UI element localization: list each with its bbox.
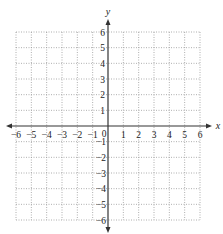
x-tick-label: 6 <box>198 130 203 140</box>
y-tick-label: −6 <box>96 216 106 226</box>
x-axis-label: x <box>215 120 221 131</box>
x-tick-label: −6 <box>11 130 21 140</box>
y-tick-label: −5 <box>96 200 106 210</box>
y-tick-label: 6 <box>100 28 105 38</box>
x-tick-label: −4 <box>42 130 52 140</box>
x-axis-right-arrow-icon <box>206 124 212 129</box>
x-axis-left-arrow-icon <box>6 124 12 129</box>
y-tick-label: −2 <box>96 153 106 163</box>
y-tick-label: −1 <box>96 137 106 147</box>
y-tick-label: 1 <box>100 106 105 116</box>
axes <box>6 19 212 233</box>
y-tick-label: −4 <box>96 184 106 194</box>
x-tick-label: −3 <box>57 130 67 140</box>
y-tick-label: 3 <box>100 75 105 85</box>
x-tick-label: 1 <box>121 130 126 140</box>
y-tick-label: −3 <box>96 169 106 179</box>
y-tick-label: 5 <box>100 43 105 53</box>
y-tick-label: 2 <box>100 90 105 100</box>
x-tick-label: −2 <box>72 130 82 140</box>
coordinate-plane: xy−6−5−4−3−2−11234560123456−1−2−3−4−5−6 <box>0 0 223 234</box>
x-tick-label: 4 <box>167 130 172 140</box>
x-tick-label: 5 <box>182 130 187 140</box>
x-tick-label: 2 <box>136 130 141 140</box>
x-tick-label: 3 <box>152 130 157 140</box>
y-axis-label: y <box>105 6 111 17</box>
y-axis-down-arrow-icon <box>106 227 111 233</box>
y-axis-up-arrow-icon <box>106 19 111 25</box>
x-tick-label: −5 <box>26 130 36 140</box>
tick-labels: xy−6−5−4−3−2−11234560123456−1−2−3−4−5−6 <box>11 6 221 226</box>
y-tick-label: 4 <box>100 59 105 69</box>
